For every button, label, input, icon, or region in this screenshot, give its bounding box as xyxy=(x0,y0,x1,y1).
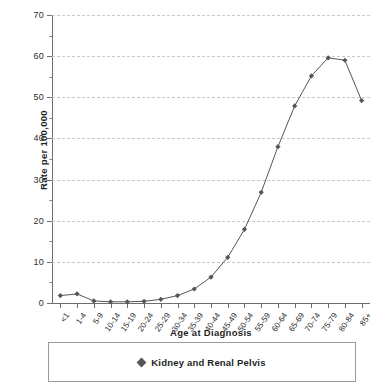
x-tick xyxy=(161,303,162,308)
y-axis-label: 10 xyxy=(34,257,44,267)
data-point-marker xyxy=(192,286,197,291)
data-point-marker xyxy=(225,255,230,260)
y-tick xyxy=(47,221,52,222)
legend-item-label: Kidney and Renal Pelvis xyxy=(151,357,265,368)
y-axis-label: 60 xyxy=(34,51,44,61)
y-tick xyxy=(47,303,52,304)
y-minor-tick xyxy=(49,159,52,160)
data-point-marker xyxy=(275,144,280,149)
y-tick xyxy=(47,138,52,139)
data-point-marker xyxy=(158,297,163,302)
x-tick xyxy=(127,303,128,308)
gridline xyxy=(52,221,370,222)
x-tick xyxy=(111,303,112,308)
y-minor-tick xyxy=(49,77,52,78)
data-point-marker xyxy=(259,190,264,195)
data-point-marker xyxy=(342,58,347,63)
y-axis-label: 40 xyxy=(34,133,44,143)
x-tick xyxy=(328,303,329,308)
gridline xyxy=(52,56,370,57)
x-tick xyxy=(278,303,279,308)
gridline xyxy=(52,262,370,263)
y-tick xyxy=(47,97,52,98)
x-tick xyxy=(362,303,363,308)
x-tick xyxy=(228,303,229,308)
y-tick xyxy=(47,56,52,57)
y-tick xyxy=(47,180,52,181)
y-minor-tick xyxy=(49,241,52,242)
data-point-marker xyxy=(292,103,297,108)
plot-area: 010203040506070 <11-45-910-1415-1920-242… xyxy=(52,15,370,303)
x-tick xyxy=(311,303,312,308)
x-tick xyxy=(194,303,195,308)
y-axis-label: 30 xyxy=(34,175,44,185)
y-axis-label: 50 xyxy=(34,92,44,102)
x-axis-title: Age at Diagnosis xyxy=(52,327,370,338)
y-minor-tick xyxy=(49,118,52,119)
legend: Kidney and Renal Pelvis xyxy=(48,342,356,382)
y-axis-label: 70 xyxy=(34,10,44,20)
x-tick xyxy=(60,303,61,308)
x-tick xyxy=(178,303,179,308)
series-kidney-and-renal-pelvis xyxy=(52,15,370,303)
line-chart: Rate per 100,000 010203040506070 <11-45-… xyxy=(0,0,385,392)
y-minor-tick xyxy=(49,200,52,201)
x-tick xyxy=(77,303,78,308)
x-tick xyxy=(144,303,145,308)
gridline xyxy=(52,15,370,16)
data-point-marker xyxy=(359,98,364,103)
y-axis-label: 20 xyxy=(34,216,44,226)
gridline xyxy=(52,180,370,181)
x-tick xyxy=(94,303,95,308)
gridline xyxy=(52,97,370,98)
x-tick xyxy=(345,303,346,308)
x-tick xyxy=(244,303,245,308)
y-minor-tick xyxy=(49,282,52,283)
x-tick xyxy=(295,303,296,308)
data-point-marker xyxy=(175,293,180,298)
gridline xyxy=(52,138,370,139)
data-point-marker xyxy=(309,73,314,78)
data-point-marker xyxy=(75,291,80,296)
y-tick xyxy=(47,262,52,263)
y-tick xyxy=(47,15,52,16)
data-point-marker xyxy=(242,227,247,232)
x-tick xyxy=(211,303,212,308)
data-point-marker xyxy=(58,293,63,298)
data-point-marker xyxy=(208,274,213,279)
x-tick xyxy=(261,303,262,308)
diamond-marker-icon xyxy=(137,357,147,367)
y-axis-label: 0 xyxy=(39,298,44,308)
y-minor-tick xyxy=(49,36,52,37)
legend-item: Kidney and Renal Pelvis xyxy=(138,357,265,368)
